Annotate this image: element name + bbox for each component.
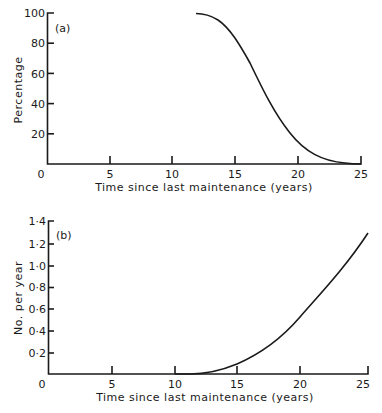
chart-b-ytick-0.8: 0·8 xyxy=(29,281,47,294)
chart-b-y-ticks xyxy=(49,244,55,353)
chart-a-xlabel: Time since last maintenance (years) xyxy=(94,181,313,194)
chart-b-ytick-1.0: 1·0 xyxy=(29,260,47,273)
chart-b-xtick-5: 5 xyxy=(109,378,116,391)
chart-b-panel-label: (b) xyxy=(56,229,72,242)
chart-b-xtick-10: 10 xyxy=(168,378,182,391)
chart-b-axes xyxy=(49,221,369,374)
chart-a-ytick-20: 20 xyxy=(31,128,45,141)
chart-a-xtick-25: 25 xyxy=(354,168,368,181)
chart-a-ytick-80: 80 xyxy=(31,37,45,50)
chart-a-ytick-40: 40 xyxy=(31,98,45,111)
chart-a-xtick-10: 10 xyxy=(165,168,179,181)
chart-a-y-ticks xyxy=(48,43,55,134)
chart-b-ytick-1.4: 1·4 xyxy=(29,215,47,228)
chart-b-ytick-1.2: 1·2 xyxy=(29,238,47,251)
chart-b-curve xyxy=(175,233,368,374)
figure: 100 80 60 40 20 0 5 10 15 20 25 Time sin… xyxy=(0,0,382,413)
chart-a-curve xyxy=(196,14,361,165)
chart-a-x-ticks xyxy=(110,156,298,164)
chart-b-ytick-0.2: 0·2 xyxy=(29,347,47,360)
chart-a-panel-label: (a) xyxy=(55,22,70,35)
chart-a-xtick-20: 20 xyxy=(291,168,305,181)
chart-b-xtick-0: 0 xyxy=(39,378,46,391)
chart-a-xtick-0: 0 xyxy=(38,168,45,181)
chart-a-ylabel: Percentage xyxy=(12,57,25,124)
chart-b-xtick-25: 25 xyxy=(356,378,370,391)
chart-a-ytick-100: 100 xyxy=(24,7,45,20)
chart-b-ytick-0.4: 0·4 xyxy=(29,325,47,338)
chart-a-xtick-15: 15 xyxy=(228,168,242,181)
chart-b: 1·4 1·2 1·0 0·8 0·6 0·4 0·2 0 5 10 15 20… xyxy=(12,215,370,404)
chart-b-xtick-20: 20 xyxy=(293,378,307,391)
chart-b-ylabel: No. per year xyxy=(12,261,25,335)
chart-a-ytick-60: 60 xyxy=(31,68,45,81)
chart-b-ytick-0.6: 0·6 xyxy=(29,303,47,316)
chart-b-xtick-15: 15 xyxy=(230,378,244,391)
chart-b-xlabel: Time since last maintenance (years) xyxy=(95,391,314,404)
chart-a: 100 80 60 40 20 0 5 10 15 20 25 Time sin… xyxy=(12,7,368,194)
chart-a-axes xyxy=(48,13,362,164)
chart-a-xtick-5: 5 xyxy=(107,168,114,181)
